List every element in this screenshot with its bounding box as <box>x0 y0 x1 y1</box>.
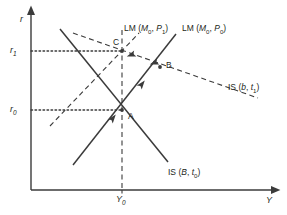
curve-label-is-B-t0: IS (B, t0) <box>168 168 200 179</box>
curve-label-lm-m0-p1: LM (M0, P1) <box>124 24 168 35</box>
equilibrium-dots-group <box>120 49 162 112</box>
y-axis-label: r <box>20 15 23 24</box>
arrow-B-to-C-left <box>126 50 137 59</box>
arrow-A-to-B-upper <box>137 78 148 89</box>
curve-label-lm-m0-p0: LM (M0, P0) <box>182 24 226 35</box>
x-tick-label-Y0: Y0 <box>116 195 126 206</box>
guide-lines-group <box>31 30 122 190</box>
curve-lines-group <box>50 29 258 165</box>
point-label-b: B <box>166 61 172 70</box>
y-tick-label-r0: r0 <box>10 105 17 116</box>
is-lm-diagram: rYr1r0Y0ABCLM (M0, P0)LM (M0, P1)IS (B, … <box>0 0 287 215</box>
curve-is-B-t0 <box>60 29 168 162</box>
equilibrium-dot-b <box>158 65 162 69</box>
curve-lm-m0-p1 <box>50 33 139 126</box>
point-label-c: C <box>113 38 119 47</box>
y-tick-label-r1: r1 <box>10 46 17 57</box>
equilibrium-dot-a <box>120 108 124 112</box>
curve-label-is-b-t1: IS (b, t1) <box>228 83 259 94</box>
axes-group <box>31 14 272 190</box>
curve-lm-m0-p0 <box>73 34 176 165</box>
equilibrium-dot-c <box>120 49 124 53</box>
x-axis-label: Y <box>266 196 272 205</box>
point-label-a: A <box>128 112 134 121</box>
